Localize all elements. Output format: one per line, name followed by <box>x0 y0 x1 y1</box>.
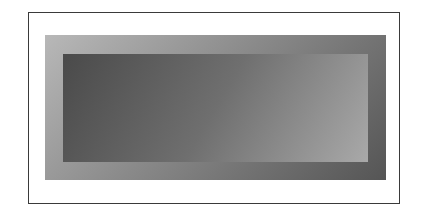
inner-gradient-rectangle <box>63 54 368 162</box>
